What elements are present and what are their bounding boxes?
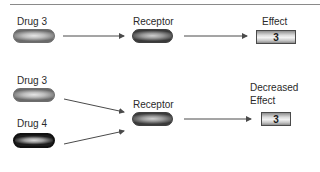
arrow-bottom-drug3-to-receptor: [64, 99, 124, 112]
arrows-layer: [0, 0, 320, 172]
arrow-bottom-drug4-to-receptor: [64, 131, 124, 144]
